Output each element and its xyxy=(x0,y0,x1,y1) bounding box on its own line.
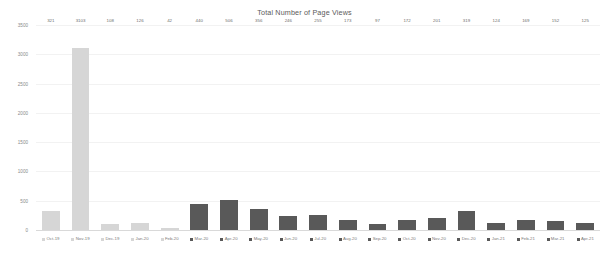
y-axis-tick-label: 1000 xyxy=(18,169,28,174)
bar[interactable]: 201 xyxy=(428,218,446,230)
bar[interactable]: 173 xyxy=(339,220,357,230)
x-axis: Oct-19Nov-19Dec-19Jan-20Feb-20Mar-20Apr-… xyxy=(36,232,600,246)
x-axis-tick: Aug-20 xyxy=(333,232,363,246)
bar-value-label: 319 xyxy=(463,19,470,23)
x-axis-tick-label: Jun-20 xyxy=(284,237,297,241)
x-axis-tick-label: Sep-20 xyxy=(373,237,387,241)
series-swatch-icon xyxy=(101,238,104,241)
bar[interactable]: 255 xyxy=(309,215,327,230)
series-swatch-icon xyxy=(71,238,74,241)
bar[interactable]: 319 xyxy=(458,211,476,230)
bar-group: 3103 xyxy=(66,25,96,230)
x-axis-tick: Feb-21 xyxy=(511,232,541,246)
series-swatch-icon xyxy=(131,238,134,241)
x-axis-tick: Dec-19 xyxy=(95,232,125,246)
bar[interactable]: 356 xyxy=(250,209,268,230)
bar-value-label: 152 xyxy=(552,19,559,23)
series-swatch-icon xyxy=(161,238,164,241)
bar-group: 440 xyxy=(184,25,214,230)
bar-group: 97 xyxy=(363,25,393,230)
series-swatch-icon xyxy=(517,238,520,241)
x-axis-tick: Sep-20 xyxy=(363,232,393,246)
bar[interactable]: 108 xyxy=(101,224,119,230)
bar[interactable]: 3103 xyxy=(72,48,90,230)
series-swatch-icon xyxy=(249,238,252,241)
series-swatch-icon xyxy=(368,238,371,241)
x-axis-tick: Mar-21 xyxy=(541,232,571,246)
bar-value-label: 97 xyxy=(375,19,380,23)
series-swatch-icon xyxy=(577,238,580,241)
x-axis-tick-label: Oct-19 xyxy=(47,237,60,241)
series-swatch-icon xyxy=(190,238,193,241)
bar-group: 356 xyxy=(244,25,274,230)
y-axis-tick-label: 2500 xyxy=(18,81,28,86)
x-axis-tick: Mar-20 xyxy=(184,232,214,246)
bar-value-label: 172 xyxy=(403,19,410,23)
bar-group: 172 xyxy=(392,25,422,230)
bar[interactable]: 97 xyxy=(369,224,387,230)
series-swatch-icon xyxy=(220,238,223,241)
bar[interactable]: 506 xyxy=(220,200,238,230)
bar[interactable]: 42 xyxy=(161,228,179,230)
x-axis-tick: May-20 xyxy=(244,232,274,246)
bar-value-label: 124 xyxy=(492,19,499,23)
x-axis-tick-label: Jan-21 xyxy=(492,237,505,241)
x-axis-tick-label: Dec-20 xyxy=(462,237,476,241)
bars-container: 3213103108126424405063562462551739717220… xyxy=(36,25,600,230)
x-axis-tick: Jan-21 xyxy=(481,232,511,246)
bar[interactable]: 169 xyxy=(517,220,535,230)
bar-group: 255 xyxy=(303,25,333,230)
bar-group: 321 xyxy=(36,25,66,230)
bar-value-label: 42 xyxy=(167,19,172,23)
bar[interactable]: 321 xyxy=(42,211,60,230)
x-axis-tick: Jun-20 xyxy=(274,232,304,246)
bar-value-label: 3103 xyxy=(76,19,86,23)
bar[interactable]: 152 xyxy=(547,221,565,230)
x-axis-tick-label: Nov-19 xyxy=(76,237,90,241)
bar-group: 506 xyxy=(214,25,244,230)
series-swatch-icon xyxy=(310,238,313,241)
bar[interactable]: 126 xyxy=(131,223,149,230)
bar-group: 201 xyxy=(422,25,452,230)
series-swatch-icon xyxy=(428,238,431,241)
bar-value-label: 173 xyxy=(344,19,351,23)
gridline xyxy=(36,230,600,231)
series-swatch-icon xyxy=(547,238,550,241)
x-axis-tick-label: Feb-21 xyxy=(521,237,535,241)
bar-value-label: 440 xyxy=(196,19,203,23)
bar[interactable]: 125 xyxy=(576,223,594,230)
x-axis-tick-label: Mar-20 xyxy=(195,237,209,241)
x-axis-tick-label: Jan-20 xyxy=(135,237,148,241)
y-axis: 3500300025002000150010005000 xyxy=(0,25,34,230)
bar[interactable]: 172 xyxy=(398,220,416,230)
series-swatch-icon xyxy=(398,238,401,241)
x-axis-tick-label: May-20 xyxy=(254,237,268,241)
x-axis-tick-label: Feb-20 xyxy=(165,237,179,241)
y-axis-tick-label: 0 xyxy=(25,228,28,233)
bar-group: 126 xyxy=(125,25,155,230)
series-swatch-icon xyxy=(457,238,460,241)
x-axis-tick-label: Oct-20 xyxy=(403,237,416,241)
bar-group: 124 xyxy=(481,25,511,230)
x-axis-tick: Jul-20 xyxy=(303,232,333,246)
x-axis-tick-label: Mar-21 xyxy=(551,237,565,241)
series-swatch-icon xyxy=(339,238,342,241)
series-swatch-icon xyxy=(487,238,490,241)
bar[interactable]: 124 xyxy=(487,223,505,230)
x-axis-tick-label: Apr-21 xyxy=(581,237,594,241)
bar-value-label: 255 xyxy=(314,19,321,23)
bar-value-label: 356 xyxy=(255,19,262,23)
bar-value-label: 246 xyxy=(285,19,292,23)
x-axis-tick: Oct-19 xyxy=(36,232,66,246)
x-axis-tick-label: Apr-20 xyxy=(225,237,238,241)
series-swatch-icon xyxy=(280,238,283,241)
x-axis-tick-label: Nov-20 xyxy=(432,237,446,241)
bar[interactable]: 440 xyxy=(190,204,208,230)
x-axis-tick: Jan-20 xyxy=(125,232,155,246)
bar-group: 319 xyxy=(452,25,482,230)
bar[interactable]: 246 xyxy=(279,216,297,230)
bar-value-label: 126 xyxy=(136,19,143,23)
bar-group: 42 xyxy=(155,25,185,230)
x-axis-tick: Apr-20 xyxy=(214,232,244,246)
bar-group: 246 xyxy=(274,25,304,230)
